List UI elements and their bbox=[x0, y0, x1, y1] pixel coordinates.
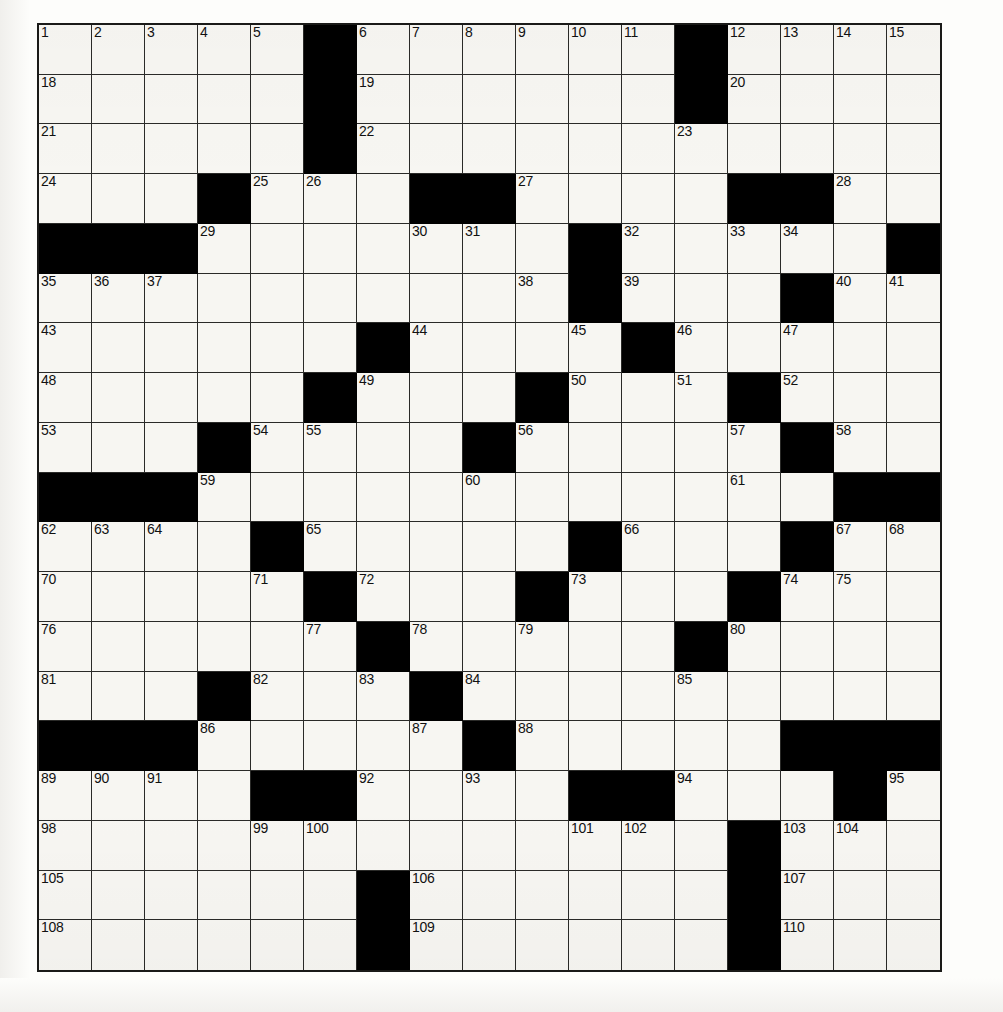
grid-cell[interactable]: 90 bbox=[92, 771, 145, 821]
grid-cell[interactable] bbox=[569, 871, 622, 921]
grid-cell[interactable]: 47 bbox=[781, 323, 834, 373]
grid-cell[interactable] bbox=[198, 274, 251, 324]
grid-cell[interactable] bbox=[198, 622, 251, 672]
grid-cell[interactable] bbox=[145, 821, 198, 871]
grid-cell[interactable] bbox=[198, 871, 251, 921]
grid-cell[interactable]: 32 bbox=[622, 224, 675, 274]
grid-cell[interactable]: 99 bbox=[251, 821, 304, 871]
grid-cell[interactable] bbox=[410, 423, 463, 473]
grid-cell[interactable]: 101 bbox=[569, 821, 622, 871]
grid-cell[interactable]: 92 bbox=[357, 771, 410, 821]
grid-cell[interactable]: 93 bbox=[463, 771, 516, 821]
grid-cell[interactable]: 35 bbox=[39, 274, 92, 324]
grid-cell[interactable] bbox=[145, 124, 198, 174]
grid-cell[interactable]: 26 bbox=[304, 174, 357, 224]
grid-cell[interactable] bbox=[622, 721, 675, 771]
grid-cell[interactable] bbox=[728, 522, 781, 572]
grid-cell[interactable]: 27 bbox=[516, 174, 569, 224]
grid-cell[interactable]: 39 bbox=[622, 274, 675, 324]
grid-cell[interactable]: 11 bbox=[622, 25, 675, 75]
grid-cell[interactable] bbox=[357, 821, 410, 871]
grid-cell[interactable]: 10 bbox=[569, 25, 622, 75]
grid-cell[interactable]: 54 bbox=[251, 423, 304, 473]
grid-cell[interactable]: 20 bbox=[728, 75, 781, 125]
grid-cell[interactable]: 8 bbox=[463, 25, 516, 75]
grid-cell[interactable]: 34 bbox=[781, 224, 834, 274]
grid-cell[interactable] bbox=[92, 871, 145, 921]
grid-cell[interactable] bbox=[728, 771, 781, 821]
grid-cell[interactable] bbox=[569, 75, 622, 125]
grid-cell[interactable] bbox=[145, 920, 198, 970]
grid-cell[interactable]: 56 bbox=[516, 423, 569, 473]
grid-cell[interactable] bbox=[622, 622, 675, 672]
grid-cell[interactable] bbox=[675, 274, 728, 324]
grid-cell[interactable] bbox=[304, 473, 357, 523]
grid-cell[interactable] bbox=[357, 522, 410, 572]
grid-cell[interactable] bbox=[887, 323, 940, 373]
grid-cell[interactable] bbox=[834, 871, 887, 921]
grid-cell[interactable] bbox=[92, 124, 145, 174]
grid-cell[interactable]: 5 bbox=[251, 25, 304, 75]
grid-cell[interactable] bbox=[887, 821, 940, 871]
grid-cell[interactable]: 38 bbox=[516, 274, 569, 324]
grid-cell[interactable] bbox=[516, 821, 569, 871]
grid-cell[interactable] bbox=[622, 920, 675, 970]
grid-cell[interactable]: 1 bbox=[39, 25, 92, 75]
grid-cell[interactable]: 63 bbox=[92, 522, 145, 572]
grid-cell[interactable]: 44 bbox=[410, 323, 463, 373]
grid-cell[interactable] bbox=[410, 522, 463, 572]
grid-cell[interactable] bbox=[569, 920, 622, 970]
grid-cell[interactable]: 85 bbox=[675, 672, 728, 722]
grid-cell[interactable] bbox=[145, 672, 198, 722]
grid-cell[interactable]: 46 bbox=[675, 323, 728, 373]
grid-cell[interactable] bbox=[251, 871, 304, 921]
grid-cell[interactable] bbox=[251, 373, 304, 423]
grid-cell[interactable] bbox=[251, 473, 304, 523]
grid-cell[interactable] bbox=[516, 224, 569, 274]
grid-cell[interactable] bbox=[145, 75, 198, 125]
grid-cell[interactable]: 65 bbox=[304, 522, 357, 572]
grid-cell[interactable] bbox=[251, 920, 304, 970]
grid-cell[interactable]: 49 bbox=[357, 373, 410, 423]
grid-cell[interactable] bbox=[145, 174, 198, 224]
grid-cell[interactable]: 3 bbox=[145, 25, 198, 75]
grid-cell[interactable] bbox=[887, 920, 940, 970]
grid-cell[interactable] bbox=[781, 473, 834, 523]
grid-cell[interactable] bbox=[675, 721, 728, 771]
grid-cell[interactable] bbox=[781, 622, 834, 672]
grid-cell[interactable]: 73 bbox=[569, 572, 622, 622]
grid-cell[interactable] bbox=[92, 920, 145, 970]
grid-cell[interactable]: 51 bbox=[675, 373, 728, 423]
grid-cell[interactable] bbox=[569, 622, 622, 672]
grid-cell[interactable] bbox=[410, 274, 463, 324]
grid-cell[interactable]: 45 bbox=[569, 323, 622, 373]
grid-cell[interactable] bbox=[675, 920, 728, 970]
grid-cell[interactable] bbox=[251, 721, 304, 771]
grid-cell[interactable] bbox=[410, 771, 463, 821]
grid-cell[interactable] bbox=[516, 473, 569, 523]
grid-cell[interactable] bbox=[145, 373, 198, 423]
grid-cell[interactable]: 91 bbox=[145, 771, 198, 821]
grid-cell[interactable] bbox=[887, 124, 940, 174]
grid-cell[interactable]: 109 bbox=[410, 920, 463, 970]
grid-cell[interactable] bbox=[887, 622, 940, 672]
grid-cell[interactable] bbox=[304, 721, 357, 771]
grid-cell[interactable]: 84 bbox=[463, 672, 516, 722]
grid-cell[interactable] bbox=[92, 174, 145, 224]
grid-cell[interactable]: 29 bbox=[198, 224, 251, 274]
grid-cell[interactable]: 14 bbox=[834, 25, 887, 75]
grid-cell[interactable]: 74 bbox=[781, 572, 834, 622]
grid-cell[interactable]: 24 bbox=[39, 174, 92, 224]
grid-cell[interactable] bbox=[516, 771, 569, 821]
grid-cell[interactable] bbox=[781, 124, 834, 174]
grid-cell[interactable]: 23 bbox=[675, 124, 728, 174]
grid-cell[interactable]: 88 bbox=[516, 721, 569, 771]
grid-cell[interactable] bbox=[304, 920, 357, 970]
grid-cell[interactable]: 80 bbox=[728, 622, 781, 672]
grid-cell[interactable] bbox=[675, 423, 728, 473]
grid-cell[interactable]: 57 bbox=[728, 423, 781, 473]
grid-cell[interactable] bbox=[463, 124, 516, 174]
grid-cell[interactable] bbox=[463, 871, 516, 921]
grid-cell[interactable] bbox=[516, 522, 569, 572]
grid-cell[interactable]: 78 bbox=[410, 622, 463, 672]
